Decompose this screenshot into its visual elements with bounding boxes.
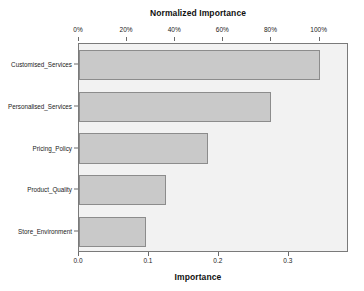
top-axis-title: Normalized Importance [78,8,318,18]
category-tick [74,231,78,232]
top-axis-tick-label: 40% [168,26,181,33]
bar [79,50,320,80]
top-axis-tick [174,37,175,41]
category-tick [74,147,78,148]
category-label: Personalised_Services [8,102,72,109]
bottom-axis-tick-label: 0.1 [143,257,152,264]
top-axis-tick-label: 60% [216,26,229,33]
bottom-axis-tick-label: 0.2 [213,257,222,264]
category-label: Product_Quality [27,186,72,193]
top-axis-tick-label: 0% [73,26,82,33]
bottom-axis-tick-label: 0.0 [73,257,82,264]
category-tick [74,63,78,64]
bar [79,92,271,122]
top-axis-tick [319,37,320,41]
bottom-axis-tick [218,252,219,256]
top-axis-tick [78,37,79,41]
category-label: Store_Environment [18,228,72,235]
top-axis-tick-label: 100% [310,26,327,33]
bar [79,217,146,247]
bottom-axis-title: Importance [78,272,318,282]
top-axis-tick-label: 20% [120,26,133,33]
category-tick [74,105,78,106]
bar [79,175,166,205]
y-axis-categories: Customised_ServicesPersonalised_Services… [0,43,78,252]
top-axis-tick [126,37,127,41]
bottom-axis-tick-label: 0.3 [283,257,292,264]
category-tick [74,189,78,190]
importance-bar-chart: Normalized Importance 0%20%40%60%80%100%… [0,0,364,291]
bottom-axis-tick [148,252,149,256]
category-label: Pricing_Policy [32,144,72,151]
bottom-axis-tick [78,252,79,256]
bottom-axis-tick [288,252,289,256]
bottom-axis-importance: 0.00.10.20.3 [78,252,348,254]
top-axis-tick-label: 80% [264,26,277,33]
plot-area [78,43,348,252]
top-axis-tick [222,37,223,41]
category-label: Customised_Services [11,60,72,67]
top-axis-tick [270,37,271,41]
bar [79,133,208,163]
